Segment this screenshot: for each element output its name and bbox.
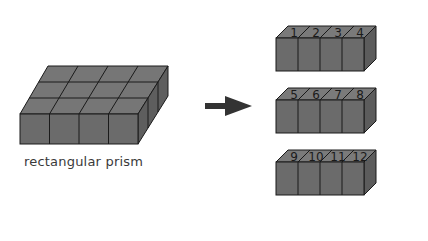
cube-row-3: 9101112 [276, 150, 376, 195]
cube-number: 7 [334, 88, 342, 102]
cube-number: 2 [312, 26, 320, 40]
arrow-right-icon [205, 96, 252, 116]
cube-row-2: 5678 [276, 88, 376, 133]
cube-number: 3 [334, 26, 342, 40]
rectangular-prism [20, 66, 168, 144]
cube-row-1: 1234 [276, 26, 376, 71]
cube-number: 12 [352, 150, 367, 164]
cube-number: 9 [290, 150, 298, 164]
cube-number: 11 [330, 150, 345, 164]
cube-number: 10 [308, 150, 323, 164]
cube-number: 6 [312, 88, 320, 102]
cube-number: 4 [356, 26, 364, 40]
prism-caption: rectangular prism [24, 154, 143, 169]
cube-number: 8 [356, 88, 364, 102]
diagram-canvas: 123456789101112 [0, 0, 428, 241]
cube-number: 1 [290, 26, 298, 40]
cube-number: 5 [290, 88, 298, 102]
